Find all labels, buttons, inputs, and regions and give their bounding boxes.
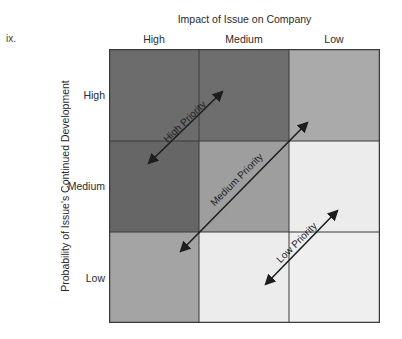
column-label-high: High <box>109 33 199 45</box>
row-label-low: Low <box>45 272 105 284</box>
column-label-medium: Medium <box>199 33 289 45</box>
cell-medium-low <box>289 141 380 232</box>
priority-matrix-grid: High Priority Medium Priority Low Priori… <box>109 49 380 323</box>
row-label-medium: Medium <box>45 180 105 192</box>
x-axis-title: Impact of Issue on Company <box>109 13 380 25</box>
cell-medium-high <box>109 141 199 232</box>
cell-low-medium <box>199 232 289 323</box>
row-label-high: High <box>45 89 105 101</box>
column-label-low: Low <box>289 33 379 45</box>
cell-high-medium <box>199 49 289 141</box>
clipped-caption-text: ix. <box>6 33 16 44</box>
